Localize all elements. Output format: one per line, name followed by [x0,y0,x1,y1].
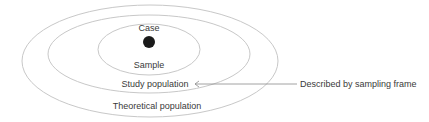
diagram-canvas [0,0,429,122]
case-dot [143,36,155,48]
sampling-frame-annotation: Described by sampling frame [300,79,417,89]
sample-label: Sample [134,60,165,70]
study-population-label: Study population [121,79,188,89]
theoretical-population-label: Theoretical population [113,101,202,111]
case-label: Case [138,23,159,33]
